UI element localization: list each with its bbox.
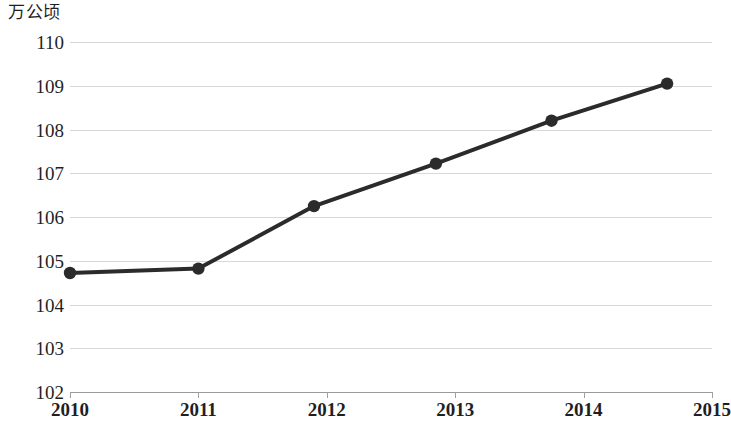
data-point-marker [64,267,76,279]
x-tick-mark [198,392,199,398]
data-point-marker [545,115,557,127]
x-tick-mark [70,392,71,398]
data-point-marker [430,157,442,169]
data-point-marker [661,77,673,89]
x-tick-mark [712,392,713,398]
x-tick-mark [455,392,456,398]
data-point-marker [308,200,320,212]
x-tick-mark [327,392,328,398]
data-point-marker [192,262,204,274]
series-markers [64,77,674,279]
x-tick-mark [584,392,585,398]
series-line [70,84,667,273]
